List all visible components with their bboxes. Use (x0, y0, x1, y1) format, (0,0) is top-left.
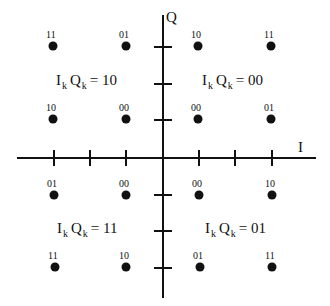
constellation-point: 10 (119, 250, 131, 272)
point-bits: 00 (191, 102, 201, 113)
constellation-point: 11 (264, 29, 276, 51)
point-bits: 00 (119, 102, 129, 113)
constellation-diagram: Q I 11 01 10 11 10 00 00 01 01 00 (0, 0, 330, 306)
constellation-point: 11 (46, 29, 58, 51)
point-bits: 11 (264, 29, 274, 40)
point-bits: 00 (119, 178, 129, 189)
point-bits: 10 (46, 102, 56, 113)
point-bits: 11 (46, 29, 56, 40)
constellation-point: 11 (265, 250, 277, 272)
point-bits: 10 (119, 250, 129, 261)
point-bits: 10 (265, 178, 275, 189)
point-bits: 00 (192, 178, 202, 189)
point-bits: 01 (119, 29, 129, 40)
i-axis-label: I (298, 139, 303, 155)
constellation-point: 01 (119, 29, 131, 51)
quadrant-label-upper-left: IkQk= 10 (56, 72, 117, 91)
point-bits: 11 (48, 250, 58, 261)
constellation-point: 01 (264, 102, 276, 124)
quadrant-label-lower-left: IkQk= 11 (57, 220, 118, 239)
point-bits: 01 (264, 102, 274, 113)
constellation-point: 01 (47, 178, 59, 200)
point-bits: 10 (191, 29, 201, 40)
q-axis-label: Q (166, 9, 177, 25)
constellation-point: 00 (192, 178, 204, 200)
constellation-point: 00 (119, 178, 131, 200)
constellation-point: 10 (191, 29, 203, 51)
point-bits: 11 (265, 250, 275, 261)
constellation-point: 01 (193, 250, 205, 272)
quadrant-label-lower-right: IkQk= 01 (205, 220, 266, 239)
constellation-point: 10 (265, 178, 277, 200)
constellation-point: 10 (46, 102, 58, 124)
constellation-point: 00 (191, 102, 203, 124)
constellation-point: 11 (48, 250, 60, 272)
point-bits: 01 (193, 250, 203, 261)
quadrant-label-upper-right: IkQk= 00 (202, 72, 263, 91)
point-bits: 01 (47, 178, 57, 189)
constellation-point: 00 (119, 102, 131, 124)
